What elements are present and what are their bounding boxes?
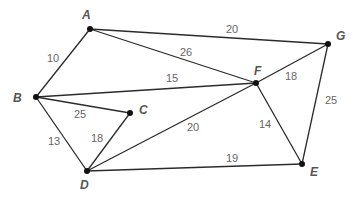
node-label-a: A xyxy=(81,8,91,22)
edge-weight-c-d: 18 xyxy=(91,132,103,144)
node-label-e: E xyxy=(310,165,319,179)
edge-d-e xyxy=(87,164,302,171)
node-d xyxy=(84,168,90,174)
edge-weight-b-f: 15 xyxy=(166,72,178,84)
edge-a-g xyxy=(90,29,328,44)
edge-weight-d-f: 20 xyxy=(187,121,199,133)
edge-weight-a-g: 20 xyxy=(226,23,238,35)
node-g xyxy=(325,41,331,47)
node-label-d: D xyxy=(80,178,89,192)
edge-weight-a-b: 10 xyxy=(47,52,59,64)
edge-a-b xyxy=(36,29,90,97)
edge-weight-b-c: 25 xyxy=(74,108,86,120)
node-label-c: C xyxy=(139,103,148,117)
edge-weight-b-d: 13 xyxy=(48,135,60,147)
node-label-b: B xyxy=(13,91,22,105)
weighted-graph-diagram: 102026152513182019181425 ABCDEFG xyxy=(0,0,354,200)
edge-weight-f-g: 18 xyxy=(285,70,297,82)
edge-weight-a-f: 26 xyxy=(180,46,192,58)
node-f xyxy=(253,80,259,86)
node-label-g: G xyxy=(336,29,345,43)
node-c xyxy=(127,110,133,116)
node-label-f: F xyxy=(254,64,262,78)
edge-weight-d-e: 19 xyxy=(226,152,238,164)
node-b xyxy=(33,94,39,100)
node-a xyxy=(87,26,93,32)
node-e xyxy=(299,161,305,167)
edge-weight-g-e: 25 xyxy=(325,94,337,106)
edge-b-f xyxy=(36,83,256,97)
edge-weight-f-e: 14 xyxy=(259,118,271,130)
